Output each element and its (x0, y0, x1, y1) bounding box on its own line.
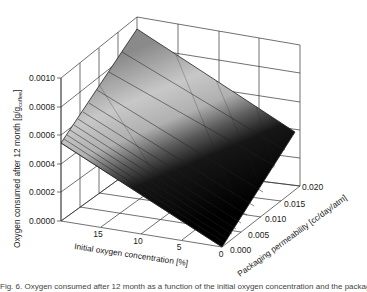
z-tick-0: 0.0000 (29, 216, 55, 226)
z-tick-4: 0.0008 (29, 102, 55, 112)
z-tick-5: 0.0010 (29, 73, 55, 83)
figure-caption: Fig. 6. Oxygen consumed after 12 month a… (0, 282, 367, 292)
y-tick-0: 0.000 (230, 245, 252, 255)
z-tick-3: 0.0006 (29, 130, 55, 140)
surface (61, 29, 295, 247)
x-axis-label: Initial oxygen concentration [%] (74, 241, 189, 268)
z-axis-ticks: 0.0000 0.0002 0.0004 0.0006 0.0008 0.001… (29, 73, 61, 226)
x-tick-15: 15 (93, 229, 103, 239)
y-tick-4: 0.020 (302, 182, 324, 192)
z-tick-1: 0.0002 (29, 187, 55, 197)
z-axis-label: Oxygen consumed after 12 month [g/gcoffe… (12, 90, 23, 248)
x-tick-10: 10 (133, 236, 143, 246)
z-tick-2: 0.0004 (29, 159, 55, 169)
y-tick-2: 0.010 (265, 214, 287, 224)
y-tick-3: 0.015 (284, 199, 306, 209)
x-tick-5: 5 (177, 242, 182, 252)
y-tick-1: 0.005 (248, 230, 270, 240)
x-tick-0: 0 (219, 249, 224, 259)
surface-chart: 0.0000 0.0002 0.0004 0.0006 0.0008 0.001… (0, 0, 367, 292)
